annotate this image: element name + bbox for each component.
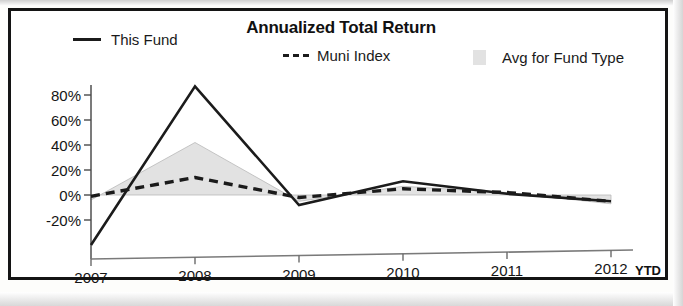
x-axis-tick-label: 2012 <box>594 260 627 277</box>
x-axis-tick-label: 2008 <box>178 267 211 284</box>
x-axis-tick-label: 2009 <box>282 266 315 283</box>
y-axis-tick-label: 60% <box>19 112 81 129</box>
scan-edge-bottom <box>0 292 683 306</box>
y-axis-tick-label: -20% <box>19 212 81 229</box>
scan-edge-right <box>673 0 683 306</box>
y-axis-tick-label: 0% <box>19 187 81 204</box>
y-axis-tick-label: 20% <box>19 162 81 179</box>
chart-frame: Annualized Total Return This Fund Muni I… <box>8 8 668 280</box>
x-axis-tick-label: 2011 <box>491 262 523 279</box>
x-axis-tick-label: 2010 <box>386 264 419 281</box>
x-axis-line <box>91 250 633 259</box>
y-axis-tick-label: 80% <box>19 87 81 104</box>
x-axis-ytd-note: YTD <box>635 263 661 278</box>
scanned-page: Annualized Total Return This Fund Muni I… <box>0 0 683 306</box>
chart-svg <box>11 11 671 283</box>
x-axis-tick-label: 2007 <box>74 269 107 286</box>
y-axis-tick-label: 40% <box>19 137 81 154</box>
scan-edge-top <box>0 0 683 6</box>
plot-area: 80%60%40%20%0%-20% 200720082009201020112… <box>11 11 671 283</box>
